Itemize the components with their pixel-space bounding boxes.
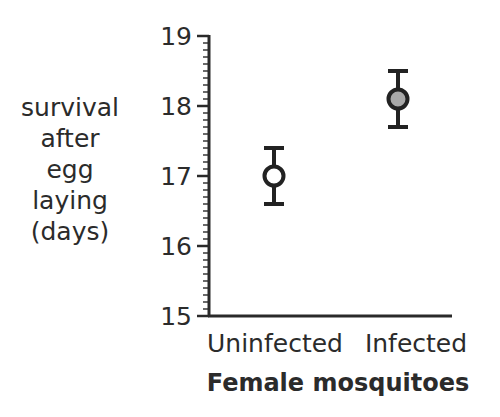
y-tick-label-19: 19 bbox=[160, 22, 192, 51]
chart-plot: 19 18 17 16 15 Uninfected Infected Femal… bbox=[0, 0, 500, 417]
x-category-label-infected: Infected bbox=[365, 329, 467, 358]
x-axis-title: Female mosquitoes bbox=[207, 369, 470, 397]
point-marker bbox=[389, 90, 408, 109]
y-tick-label-15: 15 bbox=[160, 302, 192, 331]
data-point-uninfected bbox=[264, 148, 284, 204]
y-tick-label-16: 16 bbox=[160, 232, 192, 261]
data-point-infected bbox=[388, 71, 408, 127]
y-tick-label-17: 17 bbox=[160, 162, 192, 191]
data-points bbox=[264, 71, 408, 204]
y-tick-label-18: 18 bbox=[160, 92, 192, 121]
x-category-label-uninfected: Uninfected bbox=[207, 329, 343, 358]
point-marker bbox=[265, 167, 284, 186]
